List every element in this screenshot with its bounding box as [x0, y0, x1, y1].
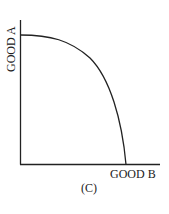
ppf-curve: [21, 35, 127, 165]
caption: (C): [81, 181, 97, 195]
y-axis-label: GOOD A: [4, 26, 18, 72]
ppf-diagram: GOOD A GOOD B (C): [0, 0, 169, 214]
x-axis-label: GOOD B: [110, 167, 156, 181]
